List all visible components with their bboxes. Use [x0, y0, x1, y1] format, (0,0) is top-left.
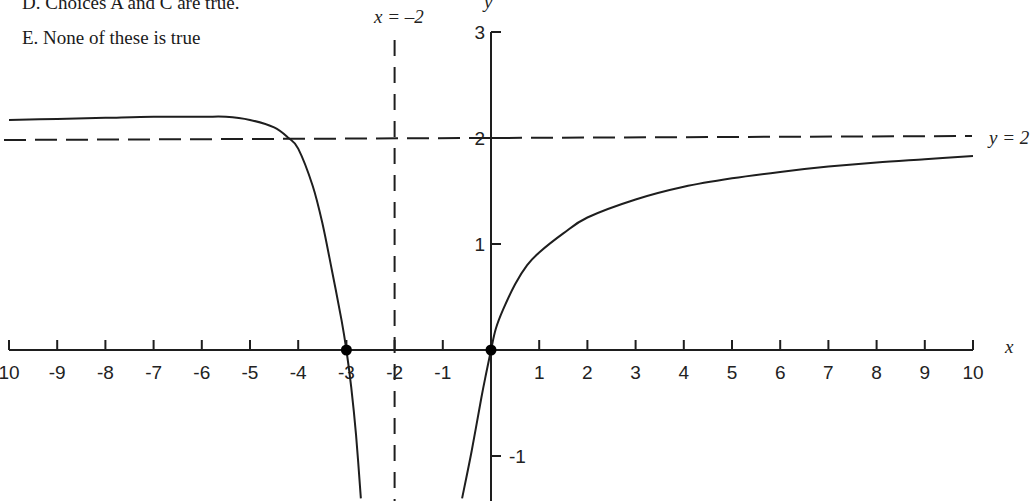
horizontal-asymptote-line	[4, 136, 972, 140]
asymptote-lines	[4, 40, 972, 501]
x-tick-label: -9	[49, 362, 66, 383]
x-tick-label: 4	[679, 362, 690, 383]
axis-labels: x = –2 y = 2 y x	[373, 0, 1030, 357]
x-tick-label: 5	[727, 362, 738, 383]
x-tick-label: 3	[630, 362, 641, 383]
x-tick-label: 7	[823, 362, 834, 383]
x-tick-label: 8	[871, 362, 882, 383]
x-tick-label: 6	[775, 362, 786, 383]
x-intercept-dot	[341, 345, 352, 356]
x-tick-label: 10	[0, 362, 20, 383]
y-tick-label: 1	[474, 234, 485, 255]
x-tick-label: 2	[582, 362, 593, 383]
function-graph: 10-9-8-7-6-5-4-3-2-112345678910321-1 x =…	[0, 0, 1031, 501]
x-axis-label: x	[1004, 336, 1014, 357]
x-intercept-dot	[486, 345, 497, 356]
x-tick-label: -6	[193, 362, 210, 383]
x-tick-label: -8	[97, 362, 114, 383]
x-tick-label: 9	[920, 362, 931, 383]
y-tick-label: -1	[509, 446, 526, 467]
x-tick-label: -4	[290, 362, 307, 383]
y-tick-label: 2	[474, 128, 485, 149]
x-tick-label: -2	[386, 362, 403, 383]
axes	[9, 32, 973, 501]
right-branch-curve	[462, 156, 973, 498]
vertical-asymptote-label: x = –2	[373, 6, 424, 27]
x-tick-label: -1	[434, 362, 451, 383]
left-branch-curve	[9, 117, 361, 499]
x-tick-label: 1	[534, 362, 545, 383]
x-tick-label: -3	[338, 362, 355, 383]
y-axis-label: y	[482, 0, 493, 12]
y-tick-label: 3	[474, 22, 485, 43]
horizontal-asymptote-label: y = 2	[987, 127, 1030, 148]
x-tick-label: -7	[145, 362, 162, 383]
x-tick-label: 10	[962, 362, 983, 383]
x-tick-label: -5	[242, 362, 259, 383]
